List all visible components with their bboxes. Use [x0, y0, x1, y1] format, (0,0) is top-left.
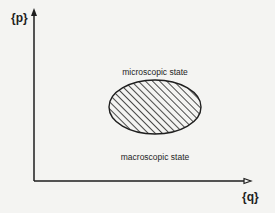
microstate-region — [105, 76, 205, 138]
macroscopic-state-label: macroscopic state — [121, 152, 190, 162]
y-axis — [31, 8, 37, 181]
y-axis-label: {p} — [11, 11, 28, 25]
x-axis-arrowhead-icon — [244, 179, 251, 184]
microscopic-state-label: microscopic state — [122, 67, 188, 77]
phase-space-diagram: {p} {q} microscopic state macroscopic st… — [0, 0, 275, 213]
y-axis-arrowhead-icon — [31, 8, 37, 16]
x-axis-label: {q} — [242, 190, 259, 204]
x-axis — [34, 179, 251, 184]
